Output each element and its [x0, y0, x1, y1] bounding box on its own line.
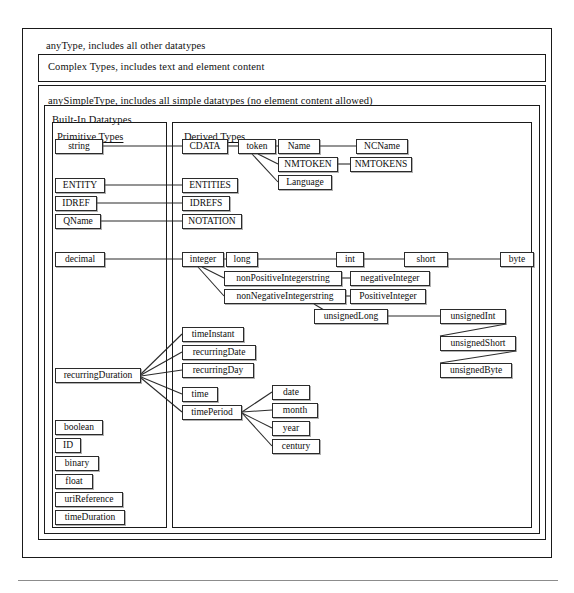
- node-language: Language: [278, 175, 332, 190]
- node-idrefs: IDREFS: [182, 196, 230, 211]
- node-nmtoken: NMTOKEN: [278, 157, 338, 172]
- node-byte: byte: [500, 252, 534, 267]
- node-unsignedint: unsignedInt: [440, 309, 506, 324]
- node-integer: integer: [182, 252, 224, 267]
- node-date: date: [272, 385, 310, 400]
- node-recurringdate: recurringDate: [182, 345, 256, 360]
- node-short: short: [404, 252, 448, 267]
- node-unsignedshort: unsignedShort: [440, 336, 516, 351]
- node-positiveinteger: PositiveInteger: [350, 289, 426, 304]
- node-nonnegativeintegerstring: nonNegativeIntegerstring: [224, 289, 346, 304]
- node-ncname: NCName: [356, 139, 408, 154]
- node-int: int: [336, 252, 364, 267]
- node-binary: binary: [55, 456, 99, 471]
- diagram-canvas: anyType, includes all other datatypesCom…: [0, 0, 574, 593]
- node-entities: ENTITIES: [182, 178, 238, 193]
- node-idref: IDREF: [55, 196, 97, 211]
- node-unsignedlong: unsignedLong: [314, 309, 388, 324]
- node-negativeinteger: negativeInteger: [350, 271, 430, 286]
- node-timeduration: timeDuration: [55, 510, 125, 525]
- node-decimal: decimal: [55, 252, 105, 267]
- node-cdata: CDATA: [182, 139, 228, 154]
- node-name: Name: [278, 139, 320, 154]
- node-id: ID: [55, 438, 81, 453]
- complextypes-frame-label: Complex Types, includes text and element…: [48, 61, 264, 72]
- node-string: string: [55, 139, 103, 154]
- node-century: century: [272, 439, 320, 454]
- node-time: time: [182, 387, 218, 402]
- node-long: long: [226, 252, 258, 267]
- node-qname: QName: [55, 214, 101, 229]
- node-float: float: [55, 474, 93, 489]
- node-boolean: boolean: [55, 420, 103, 435]
- anytype-frame-label: anyType, includes all other datatypes: [46, 40, 206, 51]
- node-entity: ENTITY: [55, 178, 105, 193]
- footer-rule: [18, 580, 558, 581]
- node-recurringday: recurringDay: [182, 363, 254, 378]
- node-nmtokens: NMTOKENS: [350, 157, 412, 172]
- node-notation: NOTATION: [182, 214, 242, 229]
- node-token: token: [238, 139, 276, 154]
- node-nonpositiveintegerstring: nonPositiveIntegerstring: [224, 271, 342, 286]
- node-unsignedbyte: unsignedByte: [440, 363, 512, 378]
- node-timeinstant: timeInstant: [182, 327, 244, 342]
- node-month: month: [272, 403, 318, 418]
- node-year: year: [272, 421, 310, 436]
- node-recurringduration: recurringDuration: [55, 368, 141, 383]
- node-urireference: uriReference: [55, 492, 123, 507]
- node-timeperiod: timePeriod: [182, 405, 242, 420]
